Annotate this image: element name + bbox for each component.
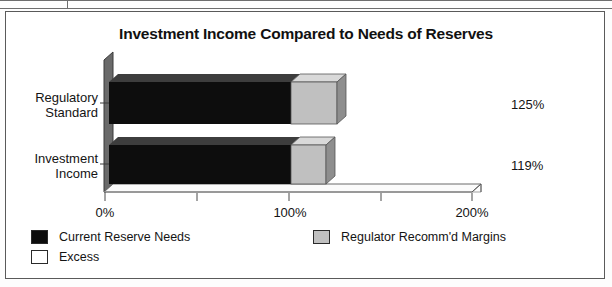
bar-1-margin-side	[337, 74, 346, 124]
chart-legend: Current Reserve Needs Excess Regulator R…	[6, 230, 606, 280]
data-label-regulatory-standard: 125%	[511, 97, 544, 112]
bar-2-black-front	[109, 145, 291, 184]
table-fragment-bottom-rule	[0, 8, 612, 9]
legend-item-excess[interactable]: Excess	[31, 250, 99, 264]
table-fragment	[0, 0, 612, 10]
table-fragment-divider	[67, 0, 68, 8]
category-label-line-1: Regulatory	[6, 90, 98, 105]
bar-2-black-top	[109, 137, 300, 145]
category-label-line-2: Standard	[6, 105, 98, 120]
category-label-line-2: Income	[6, 166, 98, 181]
bar-1-black-front	[109, 82, 291, 124]
table-fragment-top-rule	[0, 0, 612, 1]
category-label-line-1: Investment	[6, 151, 98, 166]
legend-label: Current Reserve Needs	[59, 230, 190, 244]
axis-floor	[104, 184, 481, 192]
legend-item-regulator-recommd-margins[interactable]: Regulator Recomm'd Margins	[313, 230, 506, 244]
bar-1-margin-front	[291, 82, 337, 124]
category-label-investment-income: Investment Income	[6, 151, 98, 181]
chart-frame: Investment Income Compared to Needs of R…	[5, 11, 605, 279]
xtick-label-100: 100%	[262, 205, 318, 220]
legend-swatch-white-icon	[31, 250, 48, 264]
xtick-label-0: 0%	[80, 205, 130, 220]
legend-item-current-reserve-needs[interactable]: Current Reserve Needs	[31, 230, 190, 244]
bar-1-black-top	[109, 74, 300, 82]
bar-2-margin-front	[291, 145, 326, 184]
screenshot-root: Investment Income Compared to Needs of R…	[0, 0, 612, 287]
legend-label: Excess	[59, 250, 99, 264]
category-label-regulatory-standard: Regulatory Standard	[6, 90, 98, 120]
legend-swatch-gray-icon	[313, 230, 330, 244]
data-label-investment-income: 119%	[511, 158, 543, 173]
legend-label: Regulator Recomm'd Margins	[341, 230, 506, 244]
legend-swatch-black-icon	[31, 230, 48, 244]
xtick-label-200: 200%	[444, 205, 500, 220]
bar-2-margin-side	[326, 137, 335, 184]
